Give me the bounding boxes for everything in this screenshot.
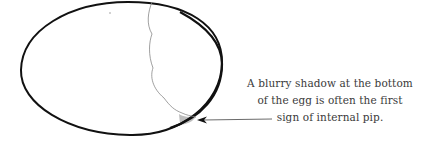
annotation-caption: A blurry shadow at the bottom of the egg… [232, 75, 422, 126]
speck [109, 12, 111, 14]
caption-line-2: of the egg is often the first [232, 92, 422, 109]
caption-line-1: A blurry shadow at the bottom [232, 75, 422, 92]
caption-line-3: sign of internal pip. [232, 109, 422, 126]
membrane-line [148, 2, 196, 117]
egg-outline [21, 2, 222, 135]
egg-outline-heavy-edge [170, 12, 222, 128]
